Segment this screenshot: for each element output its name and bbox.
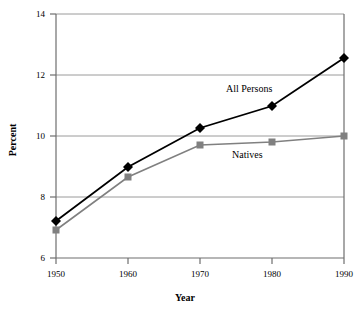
- natives-marker-1960: [125, 174, 132, 181]
- annotation-natives: Natives: [232, 149, 263, 160]
- x-tick-label-1950: 1950: [47, 269, 66, 279]
- natives-marker-1980: [269, 139, 276, 146]
- y-tick-label-14: 14: [36, 9, 46, 19]
- x-tick-label-1990: 1990: [335, 269, 354, 279]
- y-axis-title: Percent: [7, 123, 18, 156]
- line-chart-svg: 14 12 10 8 6 1950 1960 1970 1980 1990: [0, 0, 362, 313]
- x-tick-label-1970: 1970: [191, 269, 210, 279]
- x-axis-title: Year: [175, 292, 196, 303]
- y-tick-label-8: 8: [41, 192, 46, 202]
- chart-background: [0, 0, 362, 313]
- chart-figure: 14 12 10 8 6 1950 1960 1970 1980 1990: [0, 0, 362, 313]
- y-tick-label-12: 12: [36, 70, 45, 80]
- x-tick-label-1960: 1960: [119, 269, 138, 279]
- y-tick-label-6: 6: [41, 253, 46, 263]
- natives-marker-1970: [197, 142, 204, 149]
- y-tick-label-10: 10: [36, 131, 46, 141]
- natives-marker-1950: [53, 227, 60, 234]
- x-tick-label-1980: 1980: [263, 269, 282, 279]
- annotation-all-persons: All Persons: [226, 83, 273, 94]
- natives-marker-1990: [341, 133, 348, 140]
